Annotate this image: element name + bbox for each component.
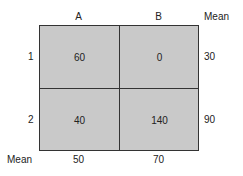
cell-value: 40 — [74, 115, 85, 126]
row-label-2: 2 — [28, 114, 34, 125]
col-header-mean: Mean — [204, 11, 229, 22]
cell-1-a: 60 — [40, 26, 119, 88]
cell-value: 60 — [74, 52, 85, 63]
row-mean-1: 30 — [204, 51, 215, 62]
cell-2-a: 40 — [40, 89, 119, 151]
means-grid: 60 0 40 140 — [39, 25, 199, 151]
col-mean-a: 50 — [39, 154, 118, 165]
cell-value: 140 — [151, 115, 168, 126]
cell-2-b: 140 — [120, 89, 199, 151]
col-header-b: B — [119, 11, 198, 22]
row-label-1: 1 — [28, 51, 34, 62]
cell-1-b: 0 — [120, 26, 199, 88]
col-mean-b: 70 — [119, 154, 198, 165]
row-mean-2: 90 — [204, 114, 215, 125]
col-header-a: A — [39, 11, 118, 22]
cell-value: 0 — [157, 52, 163, 63]
mean-row-label: Mean — [7, 154, 32, 165]
